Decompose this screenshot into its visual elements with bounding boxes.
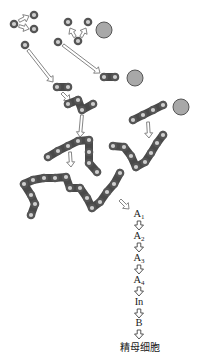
- chromosome-chain-pair-left: [53, 83, 73, 92]
- chromosome-chain-right-v: [109, 131, 168, 172]
- cells-layer: [96, 22, 189, 115]
- spermatocyte-label: 精母细胞: [114, 339, 166, 354]
- stage-label-a3: A3: [120, 252, 158, 267]
- chromosome-chain-single-f: [74, 37, 83, 46]
- chromosome-chain-single-c: [21, 41, 30, 50]
- chromosome-chain-single-e: [84, 18, 93, 27]
- stage-label-a2: A2: [120, 230, 158, 245]
- chromosome-chain-single-b: [30, 25, 39, 34]
- arrow-icon: [145, 122, 153, 138]
- arrow-icon: [67, 152, 75, 167]
- chromosome-chain-single-top-left: [10, 20, 19, 29]
- stage-label-a1: A1: [120, 208, 158, 223]
- arrow-icon: [80, 28, 87, 38]
- chromosome-chain-single-d: [64, 18, 73, 27]
- chromosome-chain-eight-bead: [44, 136, 102, 177]
- bead-chains-layer: [10, 11, 168, 220]
- cell-cell-3-icon: [173, 99, 189, 115]
- chromosome-chain-long-chain: [20, 169, 125, 220]
- arrow-icon: [18, 15, 29, 23]
- stage-label-b: B: [120, 317, 158, 329]
- cell-cell-1-icon: [96, 22, 112, 38]
- spermatogenesis-diagram: [0, 0, 200, 364]
- down-arrow-icon: [135, 330, 144, 339]
- arrow-icon: [19, 24, 29, 32]
- stage-label-in: In: [120, 296, 158, 308]
- chromosome-chain-single-a: [30, 11, 39, 20]
- chromosome-chain-single-g: [54, 38, 63, 47]
- stage-label-a4: A4: [120, 274, 158, 289]
- cell-cell-2-icon: [127, 70, 143, 86]
- arrow-icon: [62, 44, 100, 73]
- chromosome-chain-right-upper: [129, 101, 168, 125]
- arrow-icon: [76, 115, 84, 137]
- chromosome-chain-pair-right: [100, 73, 120, 82]
- arrow-icon: [69, 28, 76, 38]
- arrow-icon: [27, 49, 53, 82]
